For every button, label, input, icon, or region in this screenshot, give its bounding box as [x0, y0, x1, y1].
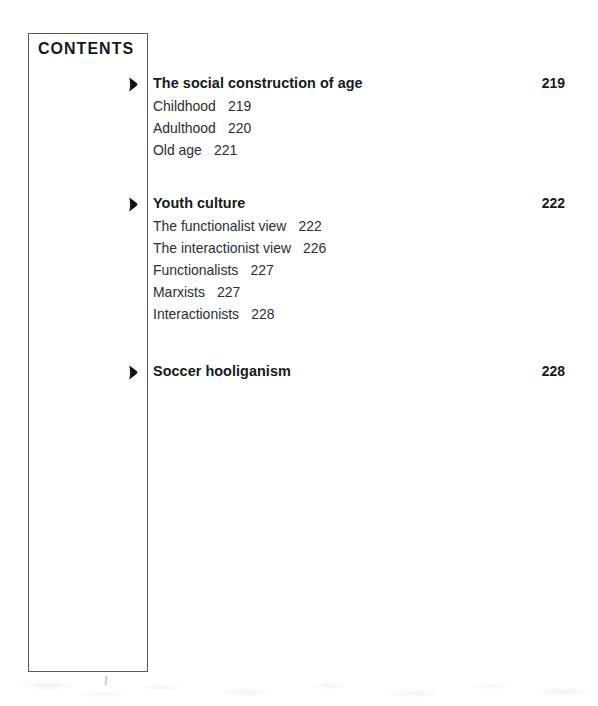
toc-section: The social construction of age219Childho… [0, 74, 598, 96]
toc-subitem[interactable]: Childhood219 [153, 97, 251, 114]
toc-subitem-page-number: 227 [250, 261, 273, 278]
toc-subitem-label: Childhood [153, 97, 216, 114]
toc-heading-label[interactable]: Soccer hooliganism [153, 362, 291, 380]
toc-subitem-label: Interactionists [153, 305, 239, 322]
toc-section: Soccer hooliganism228 [0, 362, 598, 384]
toc-subitem[interactable]: The interactionist view226 [153, 239, 326, 256]
toc-heading-row[interactable]: The social construction of age219 [0, 74, 598, 96]
toc-heading-label[interactable]: The social construction of age [153, 74, 363, 92]
toc-subitem[interactable]: Old age221 [153, 141, 237, 158]
toc-subitem-page-number: 220 [228, 119, 251, 136]
page-sheet: CONTENTS The social construction of age2… [0, 0, 598, 706]
toc-heading-row[interactable]: Soccer hooliganism228 [0, 362, 598, 384]
toc-subitem-label: Adulthood [153, 119, 216, 136]
toc-heading-label[interactable]: Youth culture [153, 194, 245, 212]
toc-subitem-page-number: 226 [303, 239, 326, 256]
toc-subitem-label: Marxists [153, 283, 205, 300]
toc-subitem-page-number: 227 [217, 283, 240, 300]
toc-section: Youth culture222The functionalist view22… [0, 194, 598, 216]
toc-subitem[interactable]: Functionalists227 [153, 261, 274, 278]
toc-subitem-page-number: 228 [251, 305, 274, 322]
toc-heading-page-number: 219 [477, 74, 565, 91]
toc-subitem[interactable]: Interactionists228 [153, 305, 274, 322]
toc-subitem[interactable]: The functionalist view222 [153, 217, 322, 234]
toc-subitem-label: Old age [153, 141, 202, 158]
toc-subitem-label: The functionalist view [153, 217, 286, 234]
toc-subitem-label: Functionalists [153, 261, 238, 278]
toc-heading-row[interactable]: Youth culture222 [0, 194, 598, 216]
arrowhead-bullet-icon [128, 77, 138, 92]
toc-heading-page-number: 222 [477, 194, 565, 211]
toc-subitem[interactable]: Adulthood220 [153, 119, 251, 136]
toc-subitem-page-number: 222 [298, 217, 321, 234]
arrowhead-bullet-icon [128, 197, 138, 212]
arrowhead-bullet-icon [128, 365, 138, 380]
toc-subitem[interactable]: Marxists227 [153, 283, 240, 300]
toc-heading-page-number: 228 [477, 362, 565, 379]
toc-subitem-label: The interactionist view [153, 239, 291, 256]
toc-subitem-page-number: 219 [228, 97, 251, 114]
toc-entries: The social construction of age219Childho… [0, 0, 598, 706]
toc-subitem-page-number: 221 [214, 141, 237, 158]
